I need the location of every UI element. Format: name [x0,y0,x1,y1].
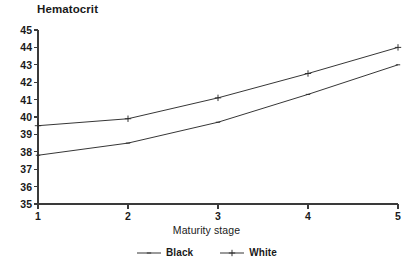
axes [38,30,398,204]
x-tick-label-3: 3 [206,211,230,222]
legend-entry-white[interactable]: White [219,247,277,258]
y-tick-label-44: 44 [6,42,32,52]
legend-label-black: Black [166,247,193,258]
x-tick-label-5: 5 [386,211,410,222]
legend-entry-black[interactable]: Black [136,247,193,258]
x-axis-ticks [38,204,398,209]
x-tick-label-1: 1 [26,211,50,222]
y-tick-label-37: 37 [6,164,32,174]
y-tick-label-43: 43 [6,60,32,70]
series-line-black [38,65,398,155]
chart-legend: BlackWhite [0,247,413,258]
x-tick-label-2: 2 [116,211,140,222]
y-tick-label-36: 36 [6,182,32,192]
x-axis-title: Maturity stage [0,224,413,236]
x-tick-label-4: 4 [296,211,320,222]
y-tick-label-38: 38 [6,147,32,157]
series-line-white [38,47,398,125]
y-tick-label-40: 40 [6,112,32,122]
y-tick-label-39: 39 [6,129,32,139]
hematocrit-line-chart: Hematocrit 4544434241403938373635 12345 … [0,0,413,271]
y-tick-label-41: 41 [6,95,32,105]
series-white [35,44,401,129]
y-tick-label-35: 35 [6,199,32,209]
series-black [36,65,400,155]
legend-marker-white-icon [219,248,245,258]
data-series-group [35,44,401,155]
y-tick-label-42: 42 [6,77,32,87]
legend-marker-black-icon [136,248,162,258]
legend-label-white: White [249,247,277,258]
y-axis-ticks [34,30,38,204]
y-tick-label-45: 45 [6,25,32,35]
